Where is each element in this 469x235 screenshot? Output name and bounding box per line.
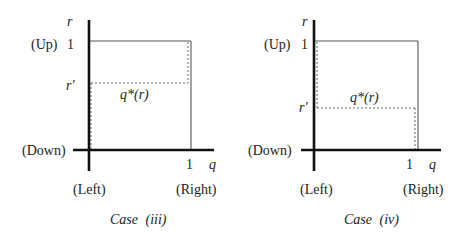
best-response-label: q*(r) [350,90,379,106]
down-label: (Down) [22,143,66,159]
y-tick-1: 1 [301,37,308,52]
best-response-label: q*(r) [120,87,149,103]
x-axis-label: q [209,157,216,172]
right-label: (Right) [403,182,444,198]
y-tick-1: 1 [67,37,74,52]
up-label: (Up) [264,37,291,53]
caption-roman: (iv) [380,212,400,228]
down-label: (Down) [248,143,292,159]
caption-prefix: Case [344,212,372,227]
left-label: (Left) [300,182,333,198]
up-label: (Up) [31,37,58,53]
caption-case-iii: Case (iii) [110,212,167,228]
y-axis-label: r [67,14,73,29]
panel-case-iii: r (Up) 1 r' q*(r) (Down) 1 q (Left) (Rig… [22,14,217,228]
caption-roman: (iii) [146,212,167,228]
x-tick-1: 1 [406,157,413,172]
diagram-canvas: r (Up) 1 r' q*(r) (Down) 1 q (Left) (Rig… [0,0,469,235]
caption-case-iv: Case (iv) [344,212,399,228]
panel-case-iv: r (Up) 1 q*(r) r' (Down) 1 q (Left) (Rig… [248,14,444,228]
r-prime-label: r' [299,100,308,115]
x-tick-1: 1 [186,157,193,172]
right-label: (Right) [176,182,217,198]
caption-prefix: Case [110,212,138,227]
r-prime-label: r' [66,78,75,93]
x-axis-label: q [429,157,436,172]
y-axis-label: r [302,14,308,29]
left-label: (Left) [73,182,106,198]
